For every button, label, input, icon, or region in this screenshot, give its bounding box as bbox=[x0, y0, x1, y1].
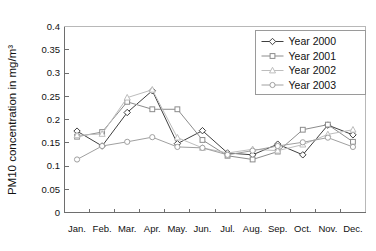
x-tick-label: Apr. bbox=[144, 223, 161, 234]
data-point-marker bbox=[200, 145, 205, 150]
legend-label: Year 2003 bbox=[289, 79, 337, 91]
data-point-marker bbox=[325, 122, 330, 127]
x-tick-label: Jul. bbox=[220, 223, 235, 234]
data-point-marker bbox=[325, 135, 330, 140]
chart-figure: PM10 concentration in mg/m³ 00.050.10.15… bbox=[0, 0, 376, 251]
data-point-marker bbox=[250, 148, 255, 153]
series-line bbox=[77, 91, 353, 155]
data-point-marker bbox=[250, 157, 255, 162]
legend-label: Year 2000 bbox=[289, 35, 337, 47]
series-year-2002 bbox=[74, 87, 356, 156]
x-axis-tick-labels: Jan.Feb.Mar.Apr.May.Jun.Jul.Aug.Sep.Oct.… bbox=[68, 223, 363, 234]
x-tick-label: Oct. bbox=[294, 223, 311, 234]
x-axis-tick-marks bbox=[90, 209, 341, 213]
data-point-marker bbox=[300, 140, 305, 145]
x-tick-label: Mar. bbox=[118, 223, 136, 234]
y-tick-label: 0.1 bbox=[47, 160, 60, 171]
data-point-marker bbox=[300, 127, 305, 132]
x-tick-label: Jun. bbox=[193, 223, 211, 234]
data-point-marker bbox=[174, 134, 180, 140]
data-point-marker bbox=[100, 143, 105, 148]
x-tick-label: May. bbox=[167, 223, 187, 234]
data-point-marker bbox=[175, 107, 180, 112]
x-tick-label: Aug. bbox=[243, 223, 263, 234]
y-tick-label: 0.25 bbox=[42, 91, 61, 102]
data-point-marker bbox=[175, 144, 180, 149]
data-point-marker bbox=[225, 152, 230, 157]
x-tick-label: Feb. bbox=[93, 223, 112, 234]
data-point-marker bbox=[150, 135, 155, 140]
x-tick-label: Jan. bbox=[68, 223, 86, 234]
y-tick-label: 0.4 bbox=[47, 21, 60, 32]
y-tick-label: 0 bbox=[55, 207, 60, 218]
data-point-marker bbox=[150, 107, 155, 112]
legend-label: Year 2002 bbox=[289, 64, 337, 76]
data-point-marker bbox=[350, 144, 355, 149]
data-point-marker bbox=[74, 157, 79, 162]
data-point-marker bbox=[351, 139, 356, 144]
y-tick-label: 0.2 bbox=[47, 114, 60, 125]
y-tick-label: 0.05 bbox=[42, 184, 61, 195]
data-point-marker bbox=[270, 54, 275, 59]
y-tick-label: 0.35 bbox=[42, 44, 61, 55]
data-series-layer bbox=[74, 87, 356, 163]
x-tick-label: Sep. bbox=[268, 223, 288, 234]
y-axis-title: PM10 concentration in mg/m³ bbox=[6, 45, 18, 195]
data-point-marker bbox=[125, 139, 130, 144]
y-axis-tick-labels: 00.050.10.150.20.250.30.350.4 bbox=[42, 21, 61, 218]
chart-legend: Year 2000Year 2001Year 2002Year 2003 bbox=[256, 31, 366, 95]
legend-label: Year 2001 bbox=[289, 50, 337, 62]
data-point-marker bbox=[275, 143, 280, 148]
pm10-line-chart: PM10 concentration in mg/m³ 00.050.10.15… bbox=[0, 0, 376, 251]
series-year-2001 bbox=[75, 99, 356, 161]
y-axis-tick-marks bbox=[65, 27, 69, 213]
y-tick-label: 0.3 bbox=[47, 67, 60, 78]
x-tick-label: Nov. bbox=[318, 223, 337, 234]
data-point-marker bbox=[270, 82, 275, 87]
y-tick-label: 0.15 bbox=[42, 137, 61, 148]
data-point-marker bbox=[200, 138, 205, 143]
x-tick-label: Dec. bbox=[343, 223, 363, 234]
data-point-marker bbox=[350, 127, 356, 133]
